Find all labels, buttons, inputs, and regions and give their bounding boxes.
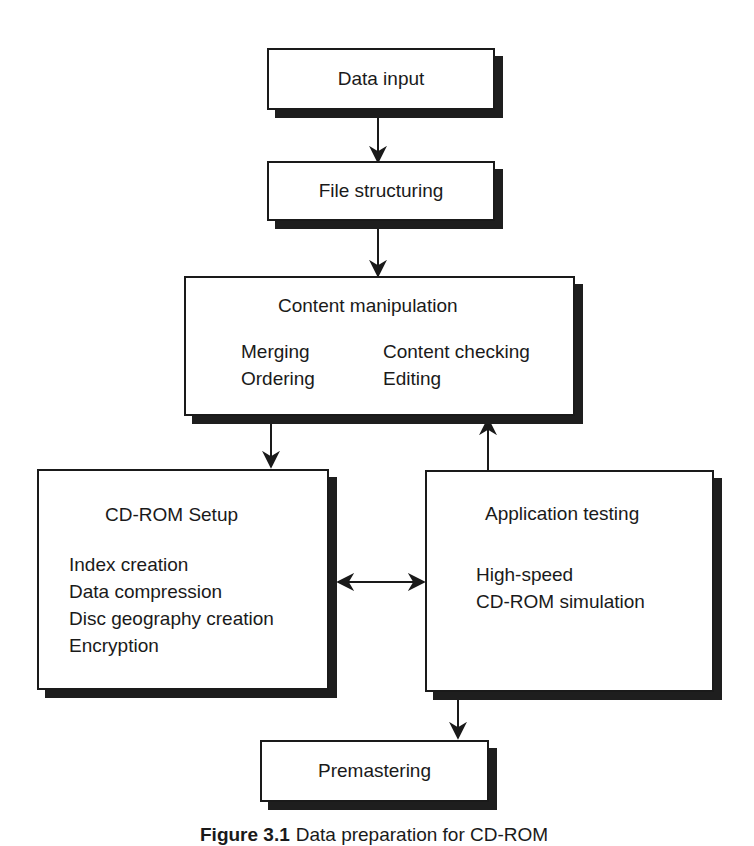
box-cdrom-setup: CD-ROM Setup Index creation Data compres…: [37, 469, 329, 690]
list-item: CD-ROM simulation: [476, 588, 645, 615]
figure-caption-text: Data preparation for CD-ROM: [296, 824, 548, 845]
list-item: Editing: [383, 365, 530, 392]
box-premastering: Premastering: [260, 740, 489, 802]
box-file-structuring-title: File structuring: [269, 180, 493, 202]
box-application-testing: Application testing High-speed CD-ROM si…: [425, 470, 714, 692]
box-cdrom-setup-title: CD-ROM Setup: [105, 504, 238, 526]
content-manipulation-col1: Merging Ordering: [241, 338, 315, 392]
box-content-manipulation-title: Content manipulation: [278, 295, 458, 317]
box-data-input-title: Data input: [269, 68, 493, 90]
box-data-input: Data input: [267, 48, 495, 110]
box-application-testing-title: Application testing: [485, 503, 639, 525]
box-content-manipulation: Content manipulation Merging Ordering Co…: [184, 276, 575, 416]
box-premastering-title: Premastering: [262, 760, 487, 782]
cdrom-setup-items: Index creation Data compression Disc geo…: [69, 551, 274, 659]
list-item: Data compression: [69, 578, 274, 605]
figure-caption: Figure 3.1Data preparation for CD-ROM: [200, 824, 548, 846]
list-item: High-speed: [476, 561, 645, 588]
list-item: Merging: [241, 338, 315, 365]
figure-caption-label: Figure 3.1: [200, 824, 290, 845]
list-item: Encryption: [69, 632, 274, 659]
list-item: Ordering: [241, 365, 315, 392]
list-item: Content checking: [383, 338, 530, 365]
list-item: Index creation: [69, 551, 274, 578]
application-testing-items: High-speed CD-ROM simulation: [476, 561, 645, 615]
list-item: Disc geography creation: [69, 605, 274, 632]
content-manipulation-col2: Content checking Editing: [383, 338, 530, 392]
box-file-structuring: File structuring: [267, 161, 495, 221]
